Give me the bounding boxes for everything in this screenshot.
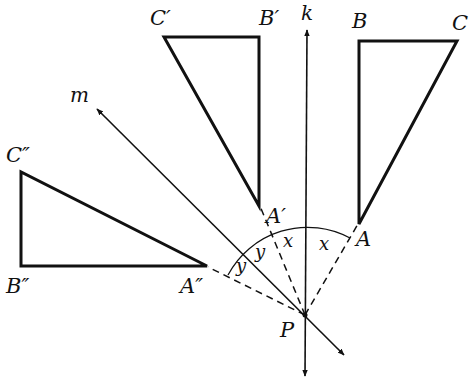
angle-label-y-upper: y [254,241,266,262]
label-c-prime: C′ [150,6,171,30]
ray-p-a-double-prime [208,267,305,315]
label-b-prime: B′ [258,6,279,30]
triangle-a-double-prime [21,172,207,266]
rotation-diagram: k m B C A C′ B′ A′ C″ B″ A″ P x x y y [0,0,473,383]
label-b-double-prime: B″ [5,274,29,298]
label-a-prime: A′ [264,204,286,228]
label-a: A [354,227,371,251]
label-k: k [301,1,313,25]
line-k [305,30,307,376]
angle-label-x-right: x [319,233,329,254]
angle-label-y-lower: y [235,255,247,276]
triangle-a-prime-b-prime-c-prime [164,37,259,206]
angle-label-x-left: x [283,230,293,251]
label-b: B [351,9,367,33]
label-m: m [70,83,89,107]
label-a-double-prime: A″ [178,274,203,298]
label-c-double-prime: C″ [6,143,30,167]
label-c: C [452,11,468,35]
point-p [303,313,308,318]
label-p: P [279,318,295,342]
triangle-abc [359,41,457,224]
